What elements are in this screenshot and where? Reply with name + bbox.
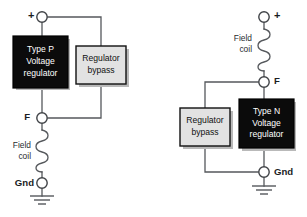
bypass-n-label-line2: bypass [191, 127, 218, 137]
terminal-node-positive-n [259, 12, 269, 22]
terminal-label-ground-p: Gnd [15, 177, 34, 188]
terminal-label-field-n: F [274, 75, 280, 86]
earth-symbol-p [30, 196, 54, 204]
field-coil-label-line2-n: coil [239, 44, 252, 54]
field-coil-symbol-p [36, 130, 48, 172]
field-coil-label-line2-p: coil [18, 151, 31, 161]
terminal-label-field-p: F [24, 111, 30, 122]
terminal-node-field-n [259, 77, 269, 87]
bypass-label-line1: Regulator [82, 53, 119, 63]
terminal-node-field-p [37, 113, 47, 123]
field-coil-label-line1-p: Field [13, 140, 31, 150]
circuit-type-p: Type P Voltage regulator Regulator bypas… [13, 9, 129, 204]
diagram-canvas: Type P Voltage regulator Regulator bypas… [0, 0, 307, 217]
regulator-label-line1: Type P [27, 44, 54, 54]
field-coil-label-line1-n: Field [234, 33, 252, 43]
terminal-node-positive-p [37, 12, 47, 22]
regulator-n-label-line1: Type N [253, 106, 280, 116]
circuit-diagram-figure: Type P Voltage regulator Regulator bypas… [0, 0, 307, 217]
regulator-n-label-line3: regulator [250, 129, 284, 139]
regulator-label-line3: regulator [24, 68, 58, 78]
terminal-label-positive-p: + [28, 9, 34, 21]
bypass-label-line2: bypass [87, 65, 114, 75]
terminal-label-ground-n: Gnd [274, 166, 293, 177]
bypass-n-label-line1: Regulator [186, 115, 223, 125]
earth-symbol-n [252, 186, 276, 194]
regulator-label-line2: Voltage [26, 56, 55, 66]
circuit-type-n: Type N Voltage regulator Regulator bypas… [180, 9, 296, 194]
terminal-node-ground-p [37, 178, 47, 188]
terminal-node-ground-n [259, 167, 269, 177]
field-coil-symbol-n [258, 29, 270, 71]
regulator-n-label-line2: Voltage [252, 118, 281, 128]
terminal-label-positive-n: + [274, 9, 280, 21]
